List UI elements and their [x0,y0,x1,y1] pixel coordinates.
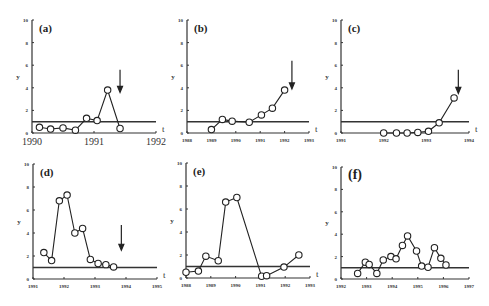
data-point [36,124,42,130]
data-point [380,130,386,136]
data-point [393,130,399,136]
data-point [215,258,221,264]
data-series-line [384,98,454,133]
data-point [258,112,264,118]
data-point [281,264,287,270]
data-point [110,264,116,270]
y-tick-label: 10 [332,18,338,23]
x-tick-label: 1993 [90,284,101,289]
t-axis-label: t [316,269,319,279]
x-tick-label: 1995 [152,284,163,289]
data-point [431,244,437,250]
y-tick-label: 0 [27,277,30,282]
data-point [374,270,380,276]
data-point [195,268,201,274]
y-tick-label: 2 [335,108,338,113]
x-tick-label: 1993 [421,138,432,143]
panel-label: (b) [194,22,208,35]
y-tick-label: 0 [180,276,183,281]
y-axis-label: y [170,217,174,225]
data-point [60,125,66,131]
x-tick-label: 1991 [255,283,266,288]
arrowhead-icon [118,86,123,92]
data-point [399,242,405,248]
data-series-line [44,195,114,267]
data-point [413,248,419,254]
x-tick-label: 1989 [206,138,217,143]
data-series-line [39,90,120,130]
panel-f: 0246810199219931994199519961997y(f) [325,165,474,289]
data-point [48,257,54,263]
panel-c: 02468101991199219931994yt(c) [325,18,478,143]
x-tick-label: 1988 [181,283,192,288]
panel-a: 0246810199019911992yt(a) [16,18,166,147]
y-axis-label: y [171,73,175,81]
data-point [47,126,53,132]
panel-label: (d) [40,166,54,179]
x-tick-label: 1993 [362,284,373,289]
y-tick-label: 10 [24,162,30,167]
y-tick-label: 4 [335,86,338,91]
data-point [87,256,93,262]
data-point [366,261,372,267]
x-tick-label: 1989 [206,283,217,288]
y-tick-label: 4 [180,230,183,235]
x-tick-label: 1992 [146,136,166,147]
data-point [183,269,189,275]
data-point [425,264,431,270]
x-tick-label: 1991 [84,136,104,147]
y-tick-label: 6 [26,63,29,68]
y-tick-label: 6 [335,210,338,215]
data-point [83,115,89,121]
data-point [438,255,444,261]
panel-label: (a) [39,22,52,35]
panel-label: (f) [348,167,362,183]
data-point [404,233,410,239]
y-axis-label: y [17,218,21,226]
y-tick-label: 4 [27,231,30,236]
data-point [79,225,85,231]
data-point [415,129,421,135]
x-tick-label: 1995 [413,284,424,289]
y-tick-label: 0 [181,131,184,136]
x-tick-label: 1988 [182,138,193,143]
y-tick-label: 6 [27,208,30,213]
data-point [41,249,47,255]
x-tick-label: 1994 [121,284,132,289]
data-point [380,257,386,263]
data-point [354,270,360,276]
y-tick-label: 2 [27,254,30,259]
x-tick-label: 1992 [59,284,70,289]
arrowhead-icon [119,244,124,250]
panel-label: (e) [193,165,206,178]
data-point [393,256,399,262]
x-tick-label: 1996 [438,284,449,289]
y-tick-label: 8 [26,41,29,46]
data-point [72,230,78,236]
data-point [425,128,431,134]
t-axis-label: t [162,124,165,134]
panel-e: 0246810198819891990199119921993yt(e) [170,161,319,288]
y-tick-label: 0 [335,131,338,136]
y-tick-label: 8 [27,185,30,190]
y-tick-label: 6 [335,63,338,68]
x-tick-label: 1992 [379,138,390,143]
x-tick-label: 1994 [387,284,398,289]
x-tick-label: 1997 [464,284,475,289]
data-point [64,192,70,198]
x-tick-label: 1992 [336,284,347,289]
data-point [95,260,101,266]
y-tick-label: 2 [181,108,184,113]
data-point [418,263,424,269]
t-axis-label: t [163,270,166,280]
arrowhead-icon [289,83,294,89]
data-point [443,262,449,268]
data-point [103,261,109,267]
data-point [451,95,457,101]
y-tick-label: 8 [181,41,184,46]
arrowhead-icon [456,87,461,93]
x-tick-label: 1992 [280,138,291,143]
data-point [222,199,228,205]
panel-b: 0246810198819891990199119921993yt(b) [171,18,318,143]
x-tick-label: 1990 [231,283,242,288]
